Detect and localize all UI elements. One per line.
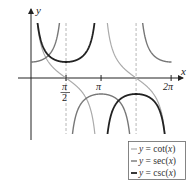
legend-label-cot: y = cot(x)	[138, 144, 176, 155]
legend-label-csc: y = csc(x)	[138, 168, 176, 179]
legend-label-sec: y = sec(x)	[138, 156, 176, 167]
y-axis-label: y	[35, 4, 41, 16]
tick-label-denominator: 2	[62, 92, 67, 103]
tick-label-2pi: 2π	[163, 81, 174, 92]
chart: y x π 2 π 2π y = cot(x) y = sec(x) y = c…	[0, 0, 196, 185]
legend: y = cot(x) y = sec(x) y = csc(x)	[129, 142, 186, 180]
x-axis-label: x	[180, 65, 186, 77]
tick-label-pi-numerator: π	[62, 81, 68, 92]
tick-label-pi-over-2: π 2	[61, 81, 71, 103]
tick-label-pi: π	[96, 81, 102, 92]
